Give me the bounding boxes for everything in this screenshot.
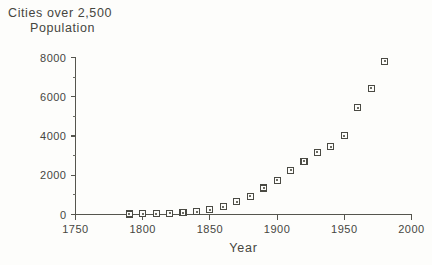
data-point <box>301 158 307 164</box>
y-tick-label: 4000 <box>40 130 66 142</box>
x-tick-label: 1750 <box>62 223 88 235</box>
data-point <box>247 193 253 199</box>
data-point <box>220 204 226 210</box>
data-point <box>140 211 146 217</box>
y-axis: 02000400060008000 <box>40 52 75 221</box>
scatter-plot: 02000400060008000 1750180018501900195020… <box>0 0 432 265</box>
data-point <box>126 211 132 217</box>
data-point <box>355 105 361 111</box>
data-point <box>341 133 347 139</box>
data-point <box>234 199 240 205</box>
y-tick-label: 0 <box>60 209 67 221</box>
data-point <box>368 85 374 91</box>
y-tick-label: 6000 <box>40 91 66 103</box>
x-tick-label: 1900 <box>264 223 290 235</box>
data-point <box>274 177 280 183</box>
data-point <box>207 207 213 213</box>
data-point <box>167 210 173 216</box>
x-tick-label: 2000 <box>398 223 424 235</box>
data-point <box>261 185 267 191</box>
x-axis: 175018001850190019502000 <box>62 215 424 235</box>
y-tick-label: 8000 <box>40 52 66 64</box>
data-point <box>328 144 334 150</box>
chart-figure: Cities over 2,500 Population 02000400060… <box>0 0 432 265</box>
x-tick-label: 1850 <box>197 223 223 235</box>
data-point <box>382 58 388 64</box>
data-point <box>194 209 200 215</box>
x-tick-label: 1950 <box>331 223 357 235</box>
y-tick-label: 2000 <box>40 169 66 181</box>
data-markers <box>126 58 387 217</box>
data-point <box>153 211 159 217</box>
x-axis-title: Year <box>229 241 257 255</box>
x-tick-label: 1800 <box>129 223 155 235</box>
data-point <box>180 210 186 216</box>
data-point <box>314 149 320 155</box>
data-point <box>288 167 294 173</box>
